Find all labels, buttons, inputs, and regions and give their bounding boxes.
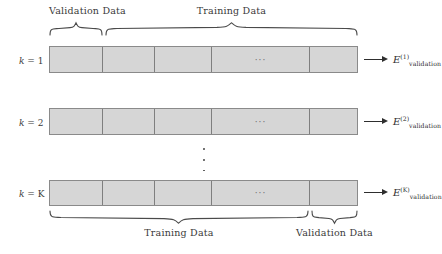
top-brace-validation (49, 22, 103, 36)
bar-segment (103, 47, 155, 72)
error-superscript-row-1: (1) (400, 53, 409, 60)
bar-segment-validation (50, 47, 103, 72)
error-subscript-row-1: validation (409, 60, 441, 67)
row-label-k2-value: 2 (38, 118, 44, 128)
arrow-head-row-3 (382, 189, 388, 195)
bottom-brace-validation (311, 210, 358, 224)
top-brace-training (105, 22, 358, 36)
bar-segment-ellipsis: ··· (212, 109, 310, 134)
row-label-k2-eq: = (27, 118, 35, 128)
kfold-bar-row-3: ··· (49, 180, 358, 206)
arrow-line-row-3 (364, 192, 383, 193)
error-superscript-row-2: (2) (400, 115, 409, 122)
bar-segment-ellipsis: ··· (212, 47, 310, 72)
error-subscript-row-3: validation (410, 193, 442, 200)
bottom-brace-label-validation: Validation Data (289, 227, 380, 238)
bar-segment (310, 109, 357, 134)
bottom-brace-label-training: Training Data (49, 227, 309, 238)
bar-segment (50, 109, 103, 134)
kfold-bar-row-2: ··· (49, 108, 358, 135)
bar-ellipsis: ··· (212, 55, 309, 65)
row-label-k1-eq: = (27, 56, 35, 66)
bar-segment (310, 47, 357, 72)
bar-segment (155, 109, 212, 134)
row-label-kK-eq: = (27, 189, 35, 199)
bar-ellipsis: ··· (212, 117, 309, 127)
row-label-k2: k = 2 (19, 118, 44, 128)
arrow-line-row-1 (364, 59, 383, 60)
arrow-head-row-2 (382, 118, 388, 124)
top-brace-label-training: Training Data (105, 5, 358, 16)
row-label-kK: k = K (19, 189, 45, 199)
row-label-kK-prefix: k (19, 189, 24, 199)
row-label-k1: k = 1 (19, 56, 44, 66)
bar-segment-ellipsis: ··· (212, 181, 310, 205)
bar-ellipsis: ··· (212, 188, 309, 198)
dot (203, 148, 205, 150)
error-label-row-3: E(K)validation (393, 186, 442, 200)
row-label-k1-value: 1 (38, 56, 44, 66)
error-label-row-1: E(1)validation (393, 53, 441, 67)
bar-segment (103, 109, 155, 134)
bar-segment (155, 47, 212, 72)
kfold-bar-row-1: ··· (49, 46, 358, 73)
arrow-head-row-1 (382, 56, 388, 62)
bar-segment-validation (310, 181, 357, 205)
error-subscript-row-2: validation (409, 122, 441, 129)
dot (203, 159, 205, 161)
dot (203, 170, 205, 172)
row-label-kK-value: K (38, 189, 45, 199)
row-label-k1-prefix: k (19, 56, 24, 66)
bottom-brace-training (49, 210, 309, 224)
row-label-k2-prefix: k (19, 118, 24, 128)
error-label-row-2: E(2)validation (393, 115, 441, 129)
bar-segment (50, 181, 103, 205)
top-brace-label-validation: Validation Data (49, 5, 103, 16)
kfold-cross-validation-figure: Validation Data Training Data k = 1 ··· … (0, 0, 442, 254)
error-superscript-row-3: (K) (400, 186, 409, 193)
vertical-ellipsis (203, 148, 205, 180)
bar-segment (155, 181, 212, 205)
arrow-line-row-2 (364, 121, 383, 122)
bar-segment (103, 181, 155, 205)
